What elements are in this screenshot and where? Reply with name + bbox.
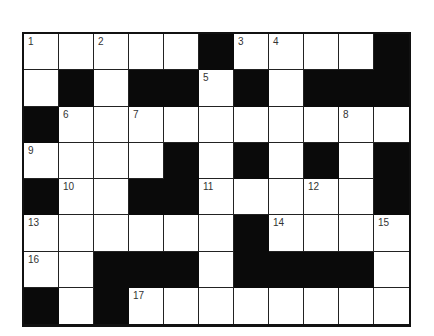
answer-cell[interactable]: 13 (24, 215, 59, 251)
answer-cell[interactable]: 3 (234, 34, 269, 70)
block-cell (374, 34, 409, 70)
answer-cell[interactable] (374, 252, 409, 288)
answer-cell[interactable] (129, 215, 164, 251)
clue-number: 10 (63, 181, 74, 193)
answer-cell[interactable] (374, 288, 409, 324)
clue-number: 11 (203, 181, 213, 193)
answer-cell[interactable] (304, 288, 339, 324)
block-cell (304, 252, 339, 288)
block-cell (24, 288, 59, 324)
clue-number: 8 (343, 109, 349, 121)
clue-number: 12 (308, 181, 319, 193)
answer-cell[interactable] (59, 288, 94, 324)
answer-cell[interactable] (269, 143, 304, 179)
block-cell (24, 179, 59, 215)
answer-cell[interactable] (199, 107, 234, 143)
answer-cell[interactable]: 16 (24, 252, 59, 288)
answer-cell[interactable]: 14 (269, 215, 304, 251)
block-cell (234, 70, 269, 106)
block-cell (374, 179, 409, 215)
answer-cell[interactable]: 11 (199, 179, 234, 215)
answer-cell[interactable] (164, 34, 199, 70)
answer-cell[interactable] (94, 107, 129, 143)
answer-cell[interactable] (164, 107, 199, 143)
block-cell (164, 179, 199, 215)
answer-cell[interactable] (199, 288, 234, 324)
answer-cell[interactable] (304, 34, 339, 70)
answer-cell[interactable]: 2 (94, 34, 129, 70)
block-cell (59, 70, 94, 106)
answer-cell[interactable] (304, 107, 339, 143)
answer-cell[interactable] (94, 179, 129, 215)
answer-cell[interactable] (59, 34, 94, 70)
answer-cell[interactable]: 4 (269, 34, 304, 70)
clue-number: 1 (28, 36, 34, 48)
block-cell (94, 252, 129, 288)
clue-number: 13 (28, 217, 39, 229)
answer-cell[interactable] (24, 70, 59, 106)
block-cell (164, 70, 199, 106)
answer-cell[interactable]: 7 (129, 107, 164, 143)
answer-cell[interactable]: 12 (304, 179, 339, 215)
block-cell (374, 143, 409, 179)
block-cell (304, 70, 339, 106)
answer-cell[interactable] (234, 288, 269, 324)
answer-cell[interactable]: 9 (24, 143, 59, 179)
clue-number: 4 (273, 36, 279, 48)
answer-cell[interactable]: 10 (59, 179, 94, 215)
answer-cell[interactable] (269, 288, 304, 324)
answer-cell[interactable]: 8 (339, 107, 374, 143)
answer-cell[interactable]: 5 (199, 70, 234, 106)
answer-cell[interactable] (59, 143, 94, 179)
block-cell (164, 143, 199, 179)
answer-cell[interactable] (164, 215, 199, 251)
answer-cell[interactable] (94, 70, 129, 106)
block-cell (164, 252, 199, 288)
clue-number: 15 (378, 217, 389, 229)
clue-number: 3 (238, 36, 244, 48)
answer-cell[interactable] (94, 143, 129, 179)
answer-cell[interactable] (304, 215, 339, 251)
clue-number: 2 (98, 36, 104, 48)
answer-cell[interactable] (199, 215, 234, 251)
block-cell (129, 252, 164, 288)
block-cell (339, 252, 374, 288)
block-cell (339, 70, 374, 106)
block-cell (234, 252, 269, 288)
clue-number: 14 (273, 217, 284, 229)
answer-cell[interactable] (129, 34, 164, 70)
answer-cell[interactable] (164, 288, 199, 324)
answer-cell[interactable] (59, 252, 94, 288)
block-cell (304, 143, 339, 179)
answer-cell[interactable]: 15 (374, 215, 409, 251)
answer-cell[interactable] (199, 252, 234, 288)
answer-cell[interactable] (339, 288, 374, 324)
answer-cell[interactable] (339, 215, 374, 251)
answer-cell[interactable] (234, 179, 269, 215)
answer-cell[interactable] (374, 107, 409, 143)
answer-cell[interactable]: 6 (59, 107, 94, 143)
answer-cell[interactable] (269, 107, 304, 143)
answer-cell[interactable] (59, 215, 94, 251)
clue-number: 9 (28, 145, 34, 157)
answer-cell[interactable] (339, 179, 374, 215)
answer-cell[interactable] (269, 70, 304, 106)
answer-cell[interactable] (234, 107, 269, 143)
clue-number: 17 (133, 290, 144, 302)
answer-cell[interactable] (339, 143, 374, 179)
clue-number: 7 (133, 109, 139, 121)
block-cell (374, 70, 409, 106)
answer-cell[interactable]: 1 (24, 34, 59, 70)
clue-number: 5 (203, 72, 209, 84)
answer-cell[interactable]: 17 (129, 288, 164, 324)
block-cell (24, 107, 59, 143)
answer-cell[interactable] (129, 143, 164, 179)
answer-cell[interactable] (199, 143, 234, 179)
block-cell (269, 252, 304, 288)
block-cell (234, 215, 269, 251)
answer-cell[interactable] (339, 34, 374, 70)
answer-cell[interactable] (269, 179, 304, 215)
answer-cell[interactable] (94, 215, 129, 251)
clue-number: 16 (28, 254, 39, 266)
block-cell (94, 288, 129, 324)
